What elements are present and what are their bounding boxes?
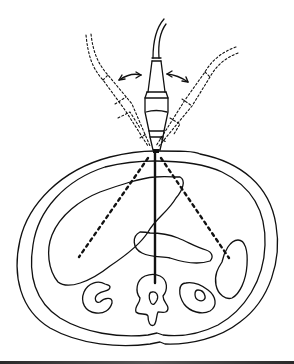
probe-ghost-right — [156, 47, 238, 146]
pancreas — [134, 232, 212, 263]
muscle-outline — [31, 161, 265, 336]
spleen — [215, 240, 247, 298]
ultrasound-diagram — [0, 0, 294, 364]
vertebra — [136, 275, 168, 326]
motion-arrow-right-icon — [167, 71, 188, 82]
skin-outline — [17, 151, 277, 346]
motion-arrow-left-icon — [119, 72, 141, 80]
liver — [49, 177, 184, 286]
beam-right-dotted — [161, 158, 229, 258]
vertebral-canal — [149, 292, 157, 305]
right-kidney — [83, 282, 112, 313]
left-kidney-hilum — [195, 290, 205, 301]
left-kidney — [180, 283, 215, 313]
probe-ghost-left — [86, 34, 150, 146]
